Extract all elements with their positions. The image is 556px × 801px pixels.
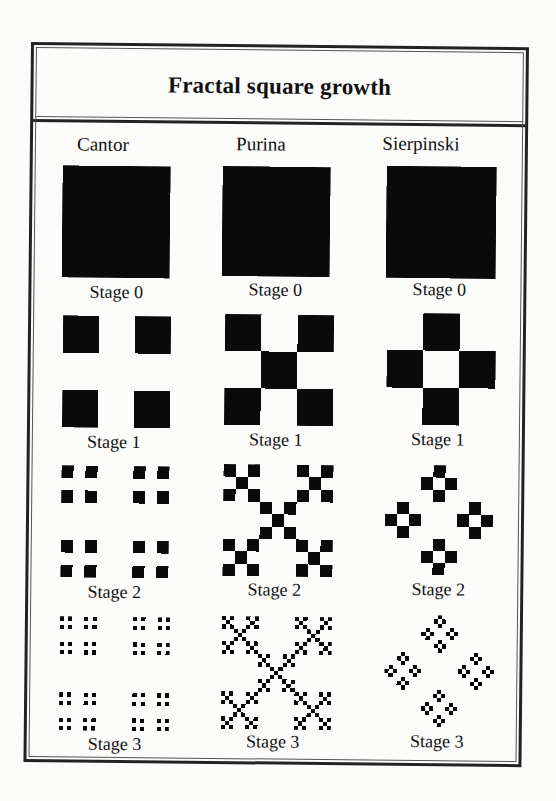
cantor-stage-3-figure (59, 616, 170, 731)
sierpinski-stage-0-label: Stage 0 (369, 279, 509, 301)
sierpinski-stage-3-label: Stage 3 (367, 731, 507, 753)
sierpinski-stage-0-figure (386, 166, 497, 279)
cantor-stage-2-label: Stage 2 (44, 581, 184, 603)
purina-stage-2-figure (222, 464, 333, 577)
column-label-purina: Purina (191, 133, 331, 156)
cantor-stage-0-figure (62, 165, 171, 278)
purina-stage-3-figure (221, 616, 332, 730)
cantor-stage-0-label: Stage 0 (46, 281, 186, 303)
cantor-stage-1-figure (62, 315, 171, 428)
cantor-stage-1-label: Stage 1 (44, 431, 184, 453)
column-label-cantor: Cantor (33, 133, 173, 156)
figure-title: Fractal square growth (168, 72, 391, 100)
sierpinski-stage-1-figure (386, 313, 496, 426)
purina-stage-0-label: Stage 0 (205, 279, 345, 301)
purina-stage-1-label: Stage 1 (206, 429, 346, 451)
figure-frame: Fractal square growth Cantor Purina Sier… (23, 42, 529, 767)
cantor-stage-3-label: Stage 3 (45, 733, 185, 755)
cantor-stage-2-figure (60, 465, 169, 578)
sierpinski-stage-2-label: Stage 2 (368, 579, 508, 601)
sierpinski-stage-2-figure (384, 465, 493, 576)
figure-header: Fractal square growth (33, 45, 526, 127)
column-label-sierpinski: Sierpinski (351, 132, 491, 155)
sierpinski-stage-1-label: Stage 1 (368, 429, 508, 451)
sierpinski-stage-3-figure (384, 615, 495, 728)
purina-stage-2-label: Stage 2 (204, 579, 344, 601)
purina-stage-1-figure (224, 314, 334, 426)
purina-stage-3-label: Stage 3 (203, 731, 343, 753)
purina-stage-0-figure (222, 166, 331, 277)
